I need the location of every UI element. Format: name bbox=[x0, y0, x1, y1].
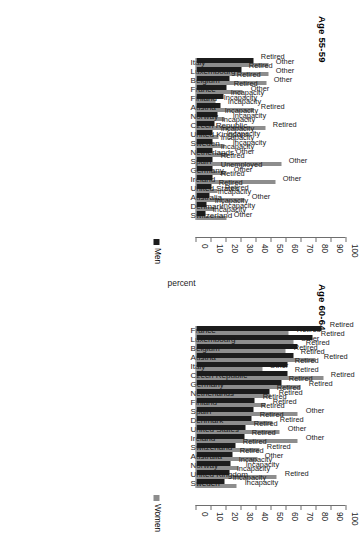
bar-value-label: Retired bbox=[272, 121, 296, 128]
axis-tick-label: 80 bbox=[320, 244, 329, 253]
axis-tick-label: 80 bbox=[320, 512, 329, 521]
axis-tick-label: 90 bbox=[335, 512, 344, 521]
bar-value-label: Retired bbox=[330, 371, 354, 378]
axis-tick bbox=[315, 237, 316, 242]
legend-swatch-men bbox=[154, 239, 160, 245]
category-label: United States bbox=[190, 426, 239, 434]
axis-tick bbox=[195, 505, 196, 510]
bar-value-label: Retired bbox=[280, 416, 304, 423]
bar-value-label: Retired bbox=[295, 367, 319, 374]
axis-tick bbox=[210, 237, 211, 242]
bar-group: IncapacityOtherNetherlands bbox=[196, 148, 345, 157]
axis-tick-label: 0 bbox=[200, 244, 209, 249]
legend-swatch-women bbox=[154, 495, 160, 501]
chart-panel-age-55-59: Age 55-59 RetiredOtherItalyRetiredOtherL… bbox=[0, 0, 363, 268]
axis-tick-label: 50 bbox=[275, 512, 284, 521]
bar-group: IncapacityIncapacityNorway bbox=[196, 112, 345, 121]
axis-tick bbox=[285, 237, 286, 242]
bar-value-label: Retired bbox=[323, 353, 347, 360]
bar-value-label: Retired bbox=[284, 470, 308, 477]
bar-value-label: Retired bbox=[295, 358, 319, 365]
axis-tick bbox=[225, 237, 226, 242]
category-label: Spain bbox=[190, 408, 211, 416]
axis-tick bbox=[270, 237, 271, 242]
bar-value-label: Retired bbox=[320, 331, 344, 338]
bar-value-label: Retired bbox=[220, 153, 244, 160]
bar-value-label: Retired bbox=[239, 448, 263, 455]
axis-tick bbox=[345, 237, 346, 242]
category-label: Ireland bbox=[190, 176, 215, 184]
axis-tick-label: 20 bbox=[230, 512, 239, 521]
bar-value-label: Other bbox=[275, 58, 293, 65]
bar-groups-age-60-64: RetiredRetiredFranceRetiredOtherLuxembou… bbox=[196, 326, 345, 488]
bar-value-label: Retired bbox=[329, 322, 353, 329]
bar-value-label: Incapacity bbox=[244, 479, 277, 486]
category-label: Austria bbox=[190, 104, 215, 112]
category-axis-line bbox=[195, 326, 196, 488]
category-label: Austria bbox=[190, 354, 215, 362]
axis-tick bbox=[300, 237, 301, 242]
axis-tick-label: 20 bbox=[230, 244, 239, 253]
bar-value-label: Retired bbox=[260, 403, 284, 410]
bar-value-label: Incapacity bbox=[228, 99, 261, 106]
axis-tick bbox=[330, 505, 331, 510]
bar-value-label: Retired bbox=[296, 326, 320, 333]
bar-group: IncapacityOtherSwitzerland bbox=[196, 211, 345, 220]
category-label: Finland bbox=[190, 399, 217, 407]
legend-women: Women bbox=[150, 495, 163, 532]
bar-value-label: Retired bbox=[253, 421, 277, 428]
bar-value-label: Retired bbox=[251, 430, 275, 437]
axis-tick bbox=[285, 505, 286, 510]
axis-tick bbox=[195, 237, 196, 242]
category-label: Belgium bbox=[190, 345, 219, 353]
axis-tick-label: 70 bbox=[305, 512, 314, 521]
bar-group: IncapacityIncapacityNorway bbox=[196, 461, 345, 470]
bar-group: IncapacityRetiredCzech Republic bbox=[196, 121, 345, 130]
axis-tick bbox=[210, 505, 211, 510]
bar-value-label: Retired bbox=[301, 349, 325, 356]
axis-tick bbox=[300, 505, 301, 510]
figure-stage: Age 60-64 RetiredRetiredFranceRetiredOth… bbox=[0, 0, 363, 536]
axis-tick-label: 100 bbox=[350, 512, 359, 526]
axis-tick bbox=[270, 505, 271, 510]
axis-tick-label: 10 bbox=[215, 244, 224, 253]
category-label: Belgium bbox=[190, 77, 219, 85]
bar-group: RetiredOtherSpain bbox=[196, 157, 345, 166]
category-label: Luxembourg bbox=[190, 68, 235, 76]
axis-tick-label: 40 bbox=[260, 244, 269, 253]
category-label: France bbox=[190, 327, 215, 335]
bar-value-label: Other bbox=[305, 407, 323, 414]
category-label: France bbox=[190, 86, 215, 94]
bar-group: IncapacityIncapacitySweden bbox=[196, 479, 345, 488]
bar-group: RetiredOtherBelgium bbox=[196, 76, 345, 85]
category-label: Czech Republic bbox=[190, 372, 247, 380]
axis-title-percent: percent bbox=[167, 278, 195, 288]
category-axis-line bbox=[195, 58, 196, 220]
chart-panel-age-60-64: Age 60-64 RetiredRetiredFranceRetiredOth… bbox=[0, 268, 363, 536]
category-label: Norway bbox=[190, 113, 217, 121]
bar-group: RetiredRetiredGermany bbox=[196, 380, 345, 389]
bar-groups-age-55-59: RetiredOtherItalyRetiredOtherLuxembourgR… bbox=[196, 58, 345, 220]
axis-tick bbox=[315, 505, 316, 510]
bar-value-label: Retired bbox=[308, 380, 332, 387]
category-label: Sweden bbox=[190, 140, 219, 148]
bar-value-label: Other bbox=[275, 67, 293, 74]
bar-value-label: Retired bbox=[220, 171, 244, 178]
value-axis-age-55-59: 0102030405060708090100 bbox=[195, 237, 345, 238]
axis-tick bbox=[255, 505, 256, 510]
bar-group: RetiredOtherItaly bbox=[196, 362, 345, 371]
category-label: Netherlands bbox=[190, 390, 234, 398]
bar-value-label: Other bbox=[305, 434, 323, 441]
bar-value-label: Other bbox=[283, 175, 301, 182]
bar-value-label: Retired bbox=[266, 443, 290, 450]
category-label: Finland bbox=[190, 95, 217, 103]
legend-men: Men bbox=[150, 239, 163, 264]
bar-value-label: Retired bbox=[242, 439, 266, 446]
axis-tick-label: 70 bbox=[305, 244, 314, 253]
axis-tick-label: 0 bbox=[200, 512, 209, 517]
axis-tick-label: 60 bbox=[290, 512, 299, 521]
axis-tick bbox=[330, 237, 331, 242]
bar-value-label: Retired bbox=[248, 63, 272, 70]
category-label: Italy bbox=[190, 363, 205, 371]
bar-value-label: Other bbox=[287, 425, 305, 432]
